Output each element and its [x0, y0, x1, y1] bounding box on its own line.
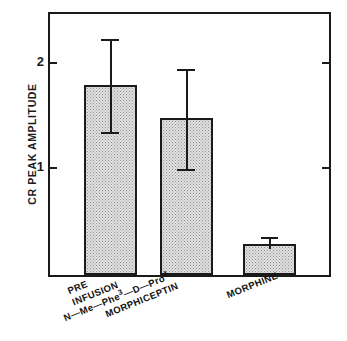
- y-tick-label-1: 1: [14, 160, 44, 173]
- y-tick-1-left: [48, 167, 57, 169]
- error-bar-cap-top-morphine: [261, 237, 278, 239]
- error-bar-cap-top-pre-infusion: [101, 39, 119, 41]
- error-bar-cap-bottom-morphiceptin: [177, 169, 195, 171]
- y-tick-2-right: [322, 62, 331, 64]
- error-bar-cap-top-morphiceptin: [177, 69, 195, 71]
- y-tick-1-right: [322, 167, 331, 169]
- bar-chart-figure: CR PEAK AMPLITUDE 2 1 PRE INFUSION N—Me—…: [0, 0, 347, 341]
- y-tick-2-left: [48, 62, 57, 64]
- y-tick-label-2: 2: [14, 55, 44, 68]
- error-bar-cap-bottom-pre-infusion: [101, 132, 119, 134]
- y-axis-title: CR PEAK AMPLITUDE: [26, 44, 38, 244]
- error-bar-line-pre-infusion: [110, 39, 112, 132]
- error-bar-line-morphiceptin: [186, 69, 188, 169]
